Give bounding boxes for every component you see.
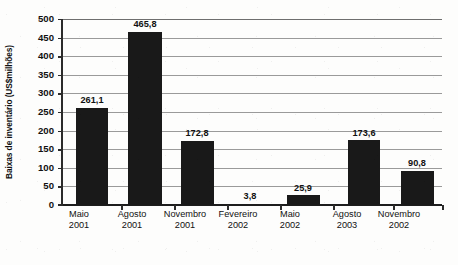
bar-agosto-2001 [128,32,162,205]
value-label-agosto-2003: 173,6 [339,128,389,138]
category-label-maio-2001: Maio 2001 [50,209,108,231]
bar-maio-2002 [287,195,320,205]
gridline-450 [63,38,442,39]
bar-novembro-2002 [401,171,434,205]
y-tickmark-350 [58,75,63,76]
category-label-novembro-2002: Novembro 2002 [366,209,432,231]
y-tickmark-450 [58,38,63,39]
gridline-50 [63,186,442,187]
category-month: Maio [50,209,108,220]
bar-agosto-2003 [348,140,380,205]
category-year: 2001 [50,220,108,231]
y-tick-250: 250 [20,107,54,117]
y-tickmark-150 [58,149,63,150]
category-year: 2002 [261,220,319,231]
y-tickmark-400 [58,56,63,57]
value-label-maio-2002: 25,9 [278,183,328,193]
y-tick-450: 450 [20,33,54,43]
bar-fevereiro-2002 [234,204,267,205]
y-tick-300: 300 [20,88,54,98]
x-tickmark-7 [442,205,444,210]
y-tick-100: 100 [20,163,54,173]
y-tick-350: 350 [20,70,54,80]
gridline-150 [63,149,442,150]
category-month: Maio [261,209,319,220]
y-tickmark-200 [58,131,63,132]
y-tick-200: 200 [20,126,54,136]
y-tickmark-300 [58,93,63,94]
y-tick-50: 50 [20,181,54,191]
y-axis-title: Baixas de inventário (US$milhões) [0,19,18,205]
inventory-writedowns-bar-chart: Baixas de inventário (US$milhões) 500 45… [0,0,458,265]
gridline-300 [63,93,442,94]
y-tick-150: 150 [20,144,54,154]
category-label-maio-2002: Maio 2002 [261,209,319,231]
y-tickmark-500 [58,19,63,20]
bar-maio-2001 [76,108,108,205]
bar-novembro-2001 [181,141,214,205]
category-month: Novembro [366,209,432,220]
gridline-100 [63,168,442,169]
value-label-agosto-2001: 465,8 [120,19,170,29]
category-year: 2002 [366,220,432,231]
y-tick-400: 400 [20,51,54,61]
y-tick-0: 0 [20,200,54,210]
plot-area: 261,1 465,8 172,8 3,8 25,9 173,6 90,8 [61,19,442,205]
y-tickmark-0 [58,204,63,205]
y-tickmark-250 [58,112,63,113]
gridline-250 [63,112,442,113]
gridline-400 [63,56,442,57]
y-tickmark-100 [58,168,63,169]
gridline-350 [63,75,442,76]
value-label-maio-2001: 261,1 [67,95,117,105]
value-label-fevereiro-2002: 3,8 [225,191,275,201]
value-label-novembro-2002: 90,8 [392,158,442,168]
y-tickmark-50 [58,186,63,187]
y-tick-500: 500 [20,14,54,24]
value-label-novembro-2001: 172,8 [172,128,222,138]
